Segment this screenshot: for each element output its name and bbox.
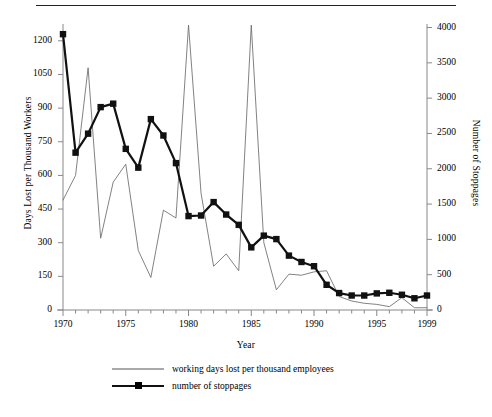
y-left-tick-1200: 1200 — [8, 35, 52, 45]
series-line-1 — [63, 34, 427, 298]
series-marker — [210, 199, 216, 205]
legend-item-1: number of stoppages — [110, 377, 410, 394]
legend-label-1: number of stoppages — [166, 381, 251, 391]
y-right-tick-3500: 3500 — [437, 57, 481, 67]
series-marker — [273, 236, 279, 242]
legend-line-icon — [112, 368, 164, 369]
series-marker — [361, 292, 367, 298]
legend-swatch-1 — [110, 379, 166, 393]
series-line-0 — [63, 25, 427, 308]
y-right-tick-500: 500 — [437, 269, 481, 279]
y-left-tick-750: 750 — [8, 136, 52, 146]
series-marker — [399, 292, 405, 298]
x-tick-1999: 1999 — [397, 319, 457, 329]
series-marker — [236, 222, 242, 228]
series-marker — [97, 104, 103, 110]
chart-plot-area — [0, 0, 492, 417]
x-tick-1990: 1990 — [284, 319, 344, 329]
y-right-tick-4000: 4000 — [437, 22, 481, 32]
x-axis-title: Year — [0, 340, 492, 350]
y-right-tick-2000: 2000 — [437, 163, 481, 173]
y-left-tick-1050: 1050 — [8, 68, 52, 78]
y-right-tick-1500: 1500 — [437, 198, 481, 208]
x-tick-1970: 1970 — [33, 319, 93, 329]
series-marker — [424, 292, 430, 298]
series-marker — [72, 149, 78, 155]
series-marker — [248, 244, 254, 250]
series-marker — [160, 132, 166, 138]
y-left-tick-450: 450 — [8, 203, 52, 213]
chart-figure: Days Lost per Thousand Workers Number of… — [0, 0, 492, 417]
series-marker — [323, 282, 329, 288]
series-marker — [411, 295, 417, 301]
y-left-tick-600: 600 — [8, 169, 52, 179]
series-marker — [185, 213, 191, 219]
y-right-tick-0: 0 — [437, 304, 481, 314]
series-marker — [223, 211, 229, 217]
series-marker — [198, 212, 204, 218]
x-tick-1980: 1980 — [159, 319, 219, 329]
series-marker — [123, 146, 129, 152]
series-marker — [173, 160, 179, 166]
y-right-tick-1000: 1000 — [437, 233, 481, 243]
series-marker — [298, 259, 304, 265]
y-left-tick-0: 0 — [8, 304, 52, 314]
y-right-tick-2500: 2500 — [437, 127, 481, 137]
series-marker — [60, 31, 66, 37]
series-marker — [336, 290, 342, 296]
series-marker — [311, 263, 317, 269]
legend-swatch-0 — [110, 362, 166, 376]
x-tick-1975: 1975 — [96, 319, 156, 329]
series-marker — [286, 252, 292, 258]
y-right-tick-3000: 3000 — [437, 92, 481, 102]
y-left-tick-300: 300 — [8, 237, 52, 247]
legend-label-0: working days lost per thousand employees — [166, 364, 334, 374]
series-marker — [261, 232, 267, 238]
y-left-tick-150: 150 — [8, 270, 52, 280]
series-marker — [85, 130, 91, 136]
y-left-tick-900: 900 — [8, 102, 52, 112]
x-tick-1985: 1985 — [221, 319, 281, 329]
series-marker — [135, 164, 141, 170]
series-marker — [386, 290, 392, 296]
series-marker — [374, 290, 380, 296]
series-marker — [148, 116, 154, 122]
legend-item-0: working days lost per thousand employees — [110, 360, 410, 377]
series-marker — [110, 100, 116, 106]
series-marker — [348, 292, 354, 298]
legend-square-marker-icon — [135, 382, 142, 389]
chart-legend: working days lost per thousand employees… — [110, 360, 410, 394]
